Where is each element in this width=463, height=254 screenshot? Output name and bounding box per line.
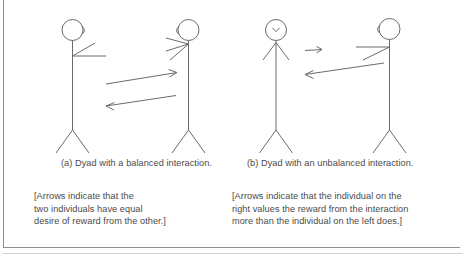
panel-b-left-person-arm-left: [263, 43, 276, 61]
figure-root: .ln { stroke: #6b6b6b; stroke-width: 1; …: [0, 0, 463, 254]
panel-b-arrow-left-to-right: [305, 47, 322, 53]
panel-a-note-line-1: [Arrows indicate that the: [34, 190, 224, 203]
panel-a-arrow-right-to-left: [106, 96, 176, 111]
panel-a-right-person-leg-right: [189, 130, 206, 153]
panel-a-right-person-head: [178, 20, 199, 41]
panel-b-arrow-right-to-left: [305, 63, 384, 79]
panel-b-left-person-leg-left: [260, 130, 277, 153]
panel-b-note-line-3: more than the individual on the left doe…: [232, 215, 454, 228]
panel-a-left-person: [56, 20, 106, 154]
panel-b-left-person: [260, 20, 293, 154]
panel-a-left-person-leg-right: [73, 130, 90, 153]
panel-a-left-person-head: [62, 20, 83, 41]
panel-b-note-line-2: right values the reward from the interac…: [232, 203, 454, 216]
panel-b-right-person-leg-left: [373, 130, 390, 153]
panel-b-note-line-1: [Arrows indicate that the individual on …: [232, 190, 454, 203]
panel-a-caption: (a) Dyad with a balanced interaction.: [61, 158, 212, 168]
panel-b-caption: (b) Dyad with an unbalanced interaction.: [247, 158, 413, 168]
panel-b-right-person-arm-lower: [363, 47, 390, 60]
panel-a-left-person-arm-upper: [73, 43, 96, 56]
panel-b-note: [Arrows indicate that the individual on …: [232, 190, 454, 228]
panel-b-left-person-head: [266, 20, 287, 41]
panel-a-arrow-left-to-right: [106, 70, 177, 85]
panel-b-right-person: [356, 19, 406, 154]
panel-a-right-person: [166, 20, 205, 154]
panel-a-note-line-2: two individuals have equal: [34, 203, 224, 216]
panel-a-note: [Arrows indicate that the two individual…: [34, 190, 224, 228]
panel-b-left-person-leg-right: [276, 130, 293, 153]
panel-b-right-person-leg-right: [390, 130, 407, 153]
panel-a-right-person-leg-left: [172, 130, 189, 153]
panel-a-left-person-leg-left: [56, 130, 73, 153]
panel-a-note-line-3: desire of reward from the other.]: [34, 215, 224, 228]
panel-b-right-person-head: [379, 19, 400, 40]
panel-b-left-person-arm-right: [276, 43, 289, 61]
